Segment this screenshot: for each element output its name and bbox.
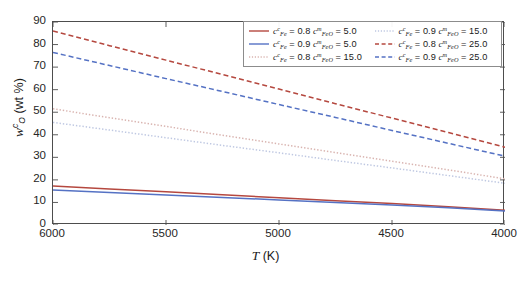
legend-column: ccFe = 0.8 cmFeO = 5.0ccFe = 0.9 cmFeO =… bbox=[248, 25, 372, 63]
legend-line-swatch bbox=[248, 26, 270, 36]
y-tick-label: 90 bbox=[0, 15, 51, 27]
legend-item[interactable]: ccFe = 0.9 cmFeO = 25.0 bbox=[374, 50, 498, 63]
legend-line-swatch bbox=[248, 52, 270, 62]
x-axis-unit: (K) bbox=[263, 249, 280, 263]
legend: ccFe = 0.8 cmFeO = 5.0ccFe = 0.9 cmFeO =… bbox=[243, 21, 502, 67]
legend-item-label: ccFe = 0.8 cmFeO = 5.0 bbox=[273, 25, 357, 37]
x-tick-label: 5500 bbox=[152, 228, 178, 240]
x-tick-label: 6000 bbox=[39, 228, 65, 240]
legend-item[interactable]: ccFe = 0.8 cmFeO = 5.0 bbox=[248, 25, 372, 38]
y-axis-superscript: c bbox=[10, 124, 20, 128]
legend-item[interactable]: ccFe = 0.9 cmFeO = 5.0 bbox=[248, 38, 372, 51]
x-tick-label: 4000 bbox=[491, 228, 517, 240]
y-tick-label: 20 bbox=[0, 173, 51, 185]
y-axis-unit: (wt %) bbox=[12, 78, 26, 113]
legend-line-swatch bbox=[374, 26, 396, 36]
y-axis-title: wcO (wt %) bbox=[11, 48, 26, 168]
legend-item-label: ccFe = 0.9 cmFeO = 15.0 bbox=[399, 25, 488, 37]
legend-item-label: ccFe = 0.9 cmFeO = 25.0 bbox=[399, 51, 488, 63]
y-tick-label: 10 bbox=[0, 196, 51, 208]
series-line bbox=[53, 122, 505, 183]
series-line bbox=[53, 52, 505, 156]
legend-item[interactable]: ccFe = 0.9 cmFeO = 15.0 bbox=[374, 25, 498, 38]
x-axis-symbol: T bbox=[252, 248, 260, 263]
legend-line-swatch bbox=[248, 39, 270, 49]
y-axis-symbol: w bbox=[11, 128, 26, 137]
legend-columns: ccFe = 0.8 cmFeO = 5.0ccFe = 0.9 cmFeO =… bbox=[248, 25, 497, 63]
legend-line-swatch bbox=[374, 39, 396, 49]
legend-item-label: ccFe = 0.8 cmFeO = 15.0 bbox=[273, 51, 362, 63]
x-axis-title: T (K) bbox=[0, 249, 531, 263]
legend-item-label: ccFe = 0.9 cmFeO = 5.0 bbox=[273, 38, 357, 50]
figure-root: 0102030405060708090 60005500500045004000… bbox=[0, 0, 531, 281]
legend-line-swatch bbox=[374, 52, 396, 62]
legend-column: ccFe = 0.9 cmFeO = 15.0ccFe = 0.8 cmFeO … bbox=[374, 25, 498, 63]
y-axis-subscript: O bbox=[17, 117, 27, 124]
series-line bbox=[53, 109, 505, 179]
x-tick-label: 5000 bbox=[265, 228, 291, 240]
legend-item[interactable]: ccFe = 0.8 cmFeO = 25.0 bbox=[374, 38, 498, 51]
series-line bbox=[53, 190, 505, 211]
x-tick-label: 4500 bbox=[378, 228, 404, 240]
legend-item-label: ccFe = 0.8 cmFeO = 25.0 bbox=[399, 38, 488, 50]
legend-item[interactable]: ccFe = 0.8 cmFeO = 15.0 bbox=[248, 50, 372, 63]
